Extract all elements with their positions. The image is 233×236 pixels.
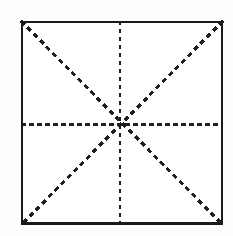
figure-canvas bbox=[0, 0, 233, 236]
grid-diagram bbox=[0, 0, 233, 236]
